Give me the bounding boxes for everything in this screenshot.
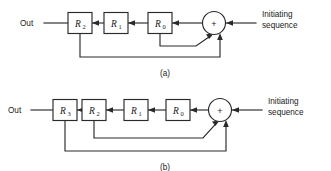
register-a-r2-subscript: 2: [83, 23, 86, 30]
adder-b: +: [209, 99, 232, 122]
figure-root: R 2 R 1 R 0 + Out Initiating sequence: [0, 0, 331, 171]
register-b-r1-subscript: 1: [139, 110, 142, 117]
panel-b: R 3 R 2 R 1 R 0 +: [8, 97, 304, 171]
register-box-a-r2: R 2: [68, 13, 92, 34]
arrow-a-r0-to-r1-icon: [128, 20, 135, 26]
adder-a-symbol: +: [211, 19, 216, 29]
register-b-r0-name: R: [172, 106, 179, 116]
input-label-a-line1: Initiating: [262, 10, 293, 19]
wire-a-feedback-r0: [160, 33, 211, 46]
register-a-r0-subscript: 0: [163, 23, 166, 30]
register-box-b-r0: R 0: [166, 100, 190, 121]
arrow-b-adder-to-r0-icon: [190, 107, 197, 113]
arrow-b-r1-to-r2-icon: [106, 107, 113, 113]
output-label-a: Out: [20, 19, 34, 28]
register-box-a-r0: R 0: [148, 13, 172, 34]
register-a-r1-subscript: 1: [119, 23, 122, 30]
register-b-r2-name: R: [88, 106, 95, 116]
panel-a: R 2 R 1 R 0 + Out Initiating sequence: [20, 10, 298, 78]
shift-register-diagram: R 2 R 1 R 0 + Out Initiating sequence: [0, 0, 331, 171]
arrow-a-adder-to-r0-icon: [172, 20, 179, 26]
register-a-r2-name: R: [74, 19, 81, 29]
adder-b-symbol: +: [217, 106, 222, 116]
wire-a-feedback-r2: [80, 33, 220, 57]
arrow-b-r0-to-r1-icon: [148, 107, 155, 113]
register-a-r1-name: R: [110, 19, 117, 29]
register-b-r3-name: R: [59, 106, 66, 116]
register-b-r1-name: R: [130, 106, 137, 116]
register-box-b-r1: R 1: [124, 100, 148, 121]
wire-b-feedback-r1: [94, 120, 217, 138]
register-a-r0-name: R: [154, 19, 161, 29]
register-b-r3-subscript: 3: [68, 110, 71, 117]
adder-a: +: [203, 12, 226, 35]
arrow-a-input-to-adder-icon: [226, 20, 233, 26]
output-label-b: Out: [8, 106, 22, 115]
arrow-a-r1-to-r2-icon: [92, 20, 99, 26]
caption-a: (a): [160, 69, 170, 78]
register-box-b-r2: R 2: [82, 100, 106, 121]
register-b-r0-subscript: 0: [181, 110, 184, 117]
register-box-a-r1: R 1: [104, 13, 128, 34]
arrow-b-input-to-adder-icon: [232, 107, 239, 113]
register-box-b-r3: R 3: [53, 100, 77, 121]
input-label-a-line2: sequence: [262, 21, 298, 30]
input-label-b-line2: sequence: [268, 108, 304, 117]
input-label-b-line1: Initiating: [268, 97, 299, 106]
caption-b: (b): [160, 163, 170, 171]
wire-b-feedback-r3: [65, 120, 226, 151]
register-b-r2-subscript: 2: [97, 110, 100, 117]
